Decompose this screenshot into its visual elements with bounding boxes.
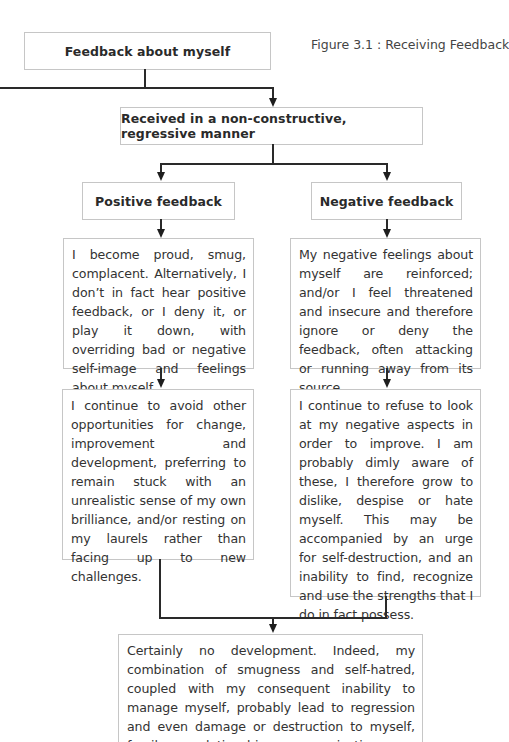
node-feedback-about-myself: Feedback about myself — [24, 32, 271, 70]
connector-line — [144, 69, 146, 88]
arrow-down-icon — [157, 172, 165, 181]
arrow-down-icon — [269, 98, 277, 107]
figure-caption: Figure 3.1 : Receiving Feedback — [311, 37, 509, 52]
node-text: I continue to refuse to look at my negat… — [299, 398, 473, 622]
node-received-manner: Received in a non-constructive, regressi… — [120, 107, 423, 145]
arrow-down-icon — [383, 379, 391, 388]
node-positive-feedback: Positive feedback — [82, 182, 235, 220]
node-outcome: Certainly no development. Indeed, my com… — [118, 634, 423, 742]
connector-line — [160, 163, 387, 165]
node-label: Feedback about myself — [65, 44, 231, 59]
connector-line — [385, 596, 387, 618]
connector-line — [160, 368, 162, 379]
node-text: I become proud, smug, complacent. Altern… — [72, 247, 246, 395]
arrow-down-icon — [157, 229, 165, 238]
arrow-down-icon — [157, 379, 165, 388]
connector-line — [160, 219, 162, 229]
node-label: Received in a non-constructive, regressi… — [121, 111, 422, 141]
node-text: Certainly no development. Indeed, my com… — [127, 643, 415, 742]
connector-line — [159, 559, 161, 618]
node-negative-consequence: I continue to refuse to look at my negat… — [290, 389, 481, 597]
connector-line — [272, 617, 274, 624]
arrow-down-icon — [383, 229, 391, 238]
connector-line — [386, 219, 388, 229]
arrow-down-icon — [269, 624, 277, 633]
node-negative-feedback: Negative feedback — [311, 182, 462, 220]
node-label: Positive feedback — [95, 194, 222, 209]
connector-line — [0, 87, 273, 89]
node-positive-consequence: I continue to avoid other opportunities … — [62, 389, 254, 560]
node-negative-reaction: My negative feelings about myself are re… — [290, 238, 481, 369]
node-positive-reaction: I become proud, smug, complacent. Altern… — [63, 238, 254, 369]
node-text: I continue to avoid other opportunities … — [71, 398, 246, 584]
arrow-down-icon — [383, 172, 391, 181]
connector-line — [386, 368, 388, 379]
node-label: Negative feedback — [320, 194, 454, 209]
connector-line — [272, 144, 274, 163]
